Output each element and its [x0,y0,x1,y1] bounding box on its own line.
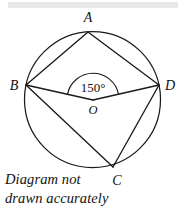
vertex-label-a: A [83,10,93,25]
segment-b-c [26,85,113,167]
center-label-o: O [88,103,97,117]
caption-line-1: Diagram not [5,170,135,189]
angle-value-label: 150° [81,80,106,95]
caption-line-2: drawn accurately [5,189,135,208]
diagram-page: 150° O A B D C Diagram not drawn accurat… [0,0,185,210]
figure-caption: Diagram not drawn accurately [5,170,135,208]
segment-a-d [88,32,159,85]
vertex-label-d: D [164,78,175,93]
segment-d-c [113,85,159,167]
vertex-label-b: B [10,78,19,93]
